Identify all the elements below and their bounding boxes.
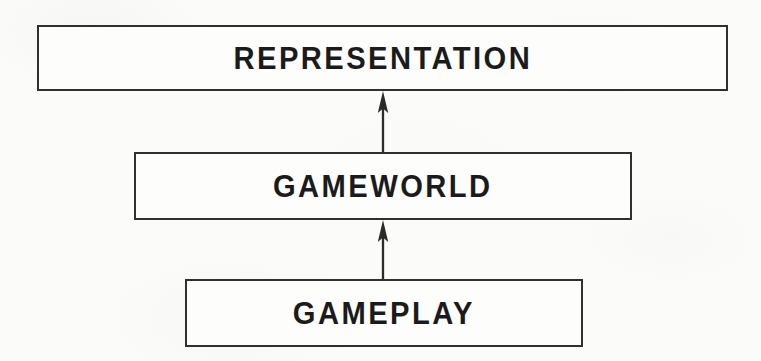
diagram-canvas: REPRESENTATION GAMEWORLD GAMEPLAY	[0, 0, 761, 361]
node-gameplay-label: GAMEPLAY	[293, 298, 475, 329]
node-gameworld-label: GAMEWORLD	[273, 171, 492, 202]
node-representation-label: REPRESENTATION	[233, 43, 532, 74]
node-gameplay[interactable]: GAMEPLAY	[185, 279, 583, 347]
node-gameworld[interactable]: GAMEWORLD	[134, 152, 632, 220]
arrow-up-icon-gameplay-to-gameworld	[363, 217, 403, 283]
arrow-up-icon-gameworld-to-representation	[363, 88, 403, 156]
node-representation[interactable]: REPRESENTATION	[37, 25, 728, 91]
